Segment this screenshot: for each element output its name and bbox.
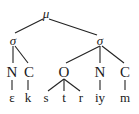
node-seg-e: ɛ	[9, 91, 14, 104]
node-seg-t: t	[62, 91, 66, 104]
node-seg-m: m	[120, 91, 130, 104]
node-c2: C	[120, 65, 130, 80]
tree-edge	[15, 19, 43, 33]
node-n2: N	[95, 65, 106, 80]
tree-edge	[102, 46, 124, 63]
node-n1: N	[7, 65, 18, 80]
node-root: μ	[43, 7, 50, 20]
node-seg-r: r	[79, 91, 83, 104]
node-sigma1: σ	[10, 34, 16, 47]
node-o2: O	[59, 65, 70, 80]
node-seg-s: s	[43, 91, 48, 104]
tree-edge	[66, 46, 100, 63]
tree-edges	[0, 0, 139, 114]
tree-edge	[15, 46, 28, 63]
node-seg-k: k	[25, 91, 32, 104]
node-sigma2: σ	[97, 34, 103, 47]
node-seg-iy: iy	[95, 91, 105, 104]
node-c1: C	[24, 65, 34, 80]
tree-edge	[64, 79, 80, 91]
tree-edge	[49, 19, 97, 35]
